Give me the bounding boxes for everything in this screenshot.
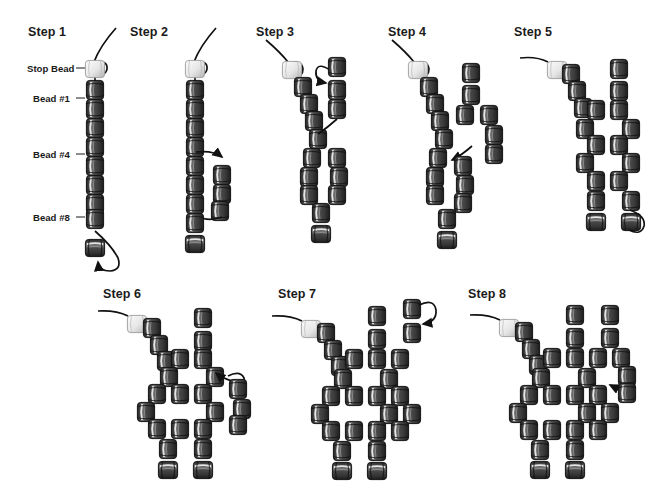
step-label-7: Step 7 bbox=[278, 287, 316, 301]
step-label-2: Step 2 bbox=[130, 25, 168, 39]
callout-bead-8: Bead #8 bbox=[33, 212, 70, 223]
callout-leader-lines bbox=[76, 68, 85, 217]
step-label-8: Step 8 bbox=[468, 287, 506, 301]
step-label-5: Step 5 bbox=[514, 25, 552, 39]
step-label-1: Step 1 bbox=[28, 25, 66, 39]
step-label-3: Step 3 bbox=[256, 25, 294, 39]
beading-diagram-svg bbox=[0, 0, 672, 496]
figure-step-5 bbox=[520, 58, 644, 233]
figure-step-6 bbox=[98, 308, 251, 478]
figure-step-3 bbox=[266, 40, 348, 243]
callout-bead-1: Bead #1 bbox=[33, 93, 70, 104]
figure-step-4 bbox=[392, 40, 503, 249]
diagram-canvas: Step 1 Step 2 Step 3 Step 4 Step 5 Step … bbox=[0, 0, 672, 496]
step-label-6: Step 6 bbox=[103, 287, 141, 301]
callout-stop-bead: Stop Bead bbox=[27, 63, 74, 74]
callout-bead-4: Bead #4 bbox=[33, 149, 70, 160]
figure-step-1 bbox=[85, 28, 119, 271]
figure-step-2 bbox=[185, 28, 230, 253]
figure-step-7 bbox=[272, 299, 436, 479]
step-label-4: Step 4 bbox=[388, 25, 426, 39]
figure-step-8 bbox=[470, 305, 636, 478]
